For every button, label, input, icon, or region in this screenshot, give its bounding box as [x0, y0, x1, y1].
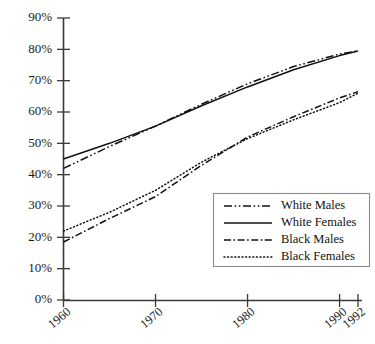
legend-label: White Females — [281, 215, 356, 229]
series-line — [64, 51, 359, 159]
y-tick-label: 50% — [28, 135, 52, 150]
y-tick-label: 70% — [28, 72, 52, 87]
y-tick-label: 90% — [28, 9, 52, 24]
legend-label: White Males — [281, 198, 345, 212]
y-tick-label: 40% — [28, 166, 52, 181]
x-axis: 19601970198019901992 — [45, 294, 368, 331]
y-tick-label: 60% — [28, 103, 52, 118]
y-tick-label: 0% — [35, 291, 53, 306]
chart-canvas: 0%10%20%30%40%50%60%70%80%90% 1960197019… — [0, 0, 375, 344]
legend: White MalesWhite FemalesBlack MalesBlack… — [214, 194, 370, 267]
x-tick-label: 1970 — [137, 305, 165, 332]
y-tick-label: 20% — [28, 229, 52, 244]
x-tick-label: 1980 — [229, 305, 257, 332]
series-line — [64, 51, 359, 168]
y-tick-label-group: 0%10%20%30%40%50%60%70%80%90% — [28, 9, 52, 306]
y-tick-label: 10% — [28, 260, 52, 275]
x-tick-label: 1992 — [340, 305, 368, 332]
x-tick-label-group: 19601970198019901992 — [45, 305, 368, 332]
y-tick-label: 30% — [28, 197, 52, 212]
x-tick-label: 1960 — [45, 305, 73, 332]
y-tick-label: 80% — [28, 41, 52, 56]
y-axis: 0%10%20%30%40%50%60%70%80%90% — [28, 9, 70, 306]
legend-label: Black Males — [281, 232, 344, 246]
legend-label: Black Females — [281, 249, 355, 263]
line-chart: 0%10%20%30%40%50%60%70%80%90% 1960197019… — [0, 0, 375, 344]
